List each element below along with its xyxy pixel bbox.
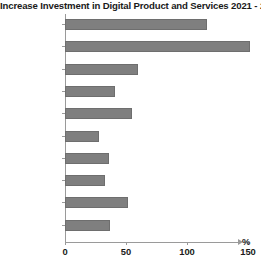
bar-retail [65,108,132,119]
bar-row: Banking [65,14,261,36]
bar-trade [65,220,110,231]
bar-row: Transportation [65,170,261,192]
bar-row: Media [65,59,261,81]
bar-chart: Increase Investment in Digital Product a… [0,0,261,261]
x-tick-label: 100 [167,246,207,258]
x-tick-label: 0 [45,246,85,258]
bar-utilities [65,153,109,164]
bar-row: Insurance [65,126,261,148]
chart-title: Increase Investment in Digital Product a… [0,0,261,12]
x-tick [126,242,127,245]
plot-area: Banking Manufacturing Media Government [65,14,261,243]
bar-banking [65,19,207,30]
bar-government [65,86,115,97]
bar-media [65,64,138,75]
bar-row: Trade [65,215,261,237]
bar-row: Manufacturing [65,36,261,58]
bar-row: Government [65,81,261,103]
bar-row: Healthcare [65,192,261,214]
x-tick-label: 50 [106,246,146,258]
x-tick [187,242,188,245]
bar-row: Retail [65,103,261,125]
bar-row: Utilities [65,148,261,170]
bar-transportation [65,175,105,186]
bar-manufacturing [65,41,250,52]
x-tick [65,242,66,245]
bar-healthcare [65,197,128,208]
x-axis-unit-label: % [242,236,250,248]
bar-insurance [65,131,99,142]
